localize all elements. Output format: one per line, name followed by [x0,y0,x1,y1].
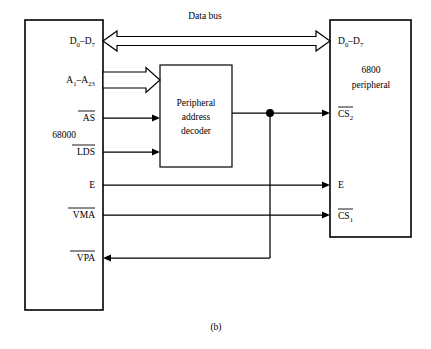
lds-arrowhead [152,148,160,155]
figure-container: Data bus D0–D7 A1–A23 AS 68000 LDS E VMA… [0,0,431,349]
cpu-pin-vma-label: VMA [73,210,95,220]
cpu-pin-as-label: AS [83,113,95,123]
as-arrowhead [152,114,160,121]
cpu-pin-e-label: E [89,180,95,190]
peripheral-block-name-line2: peripheral [352,80,391,90]
figure-caption: (b) [210,322,221,333]
decoder-label-line2: address [182,112,211,122]
peripheral-pin-e-label: E [338,180,344,190]
address-bus-arrow [103,68,160,93]
decoder-label-line1: Peripheral [176,98,215,108]
cpu-block-name: 68000 [52,130,76,140]
peripheral-block-name-line1: 6800 [362,65,381,75]
data-bus-arrow [103,31,330,51]
cpu-pin-lds-label: LDS [77,147,95,157]
e-arrowhead [322,181,330,188]
block-diagram: Data bus D0–D7 A1–A23 AS 68000 LDS E VMA… [0,0,431,349]
cpu-block-68000 [25,20,103,310]
cs1-arrowhead [322,211,330,218]
decoder-label-line3: decoder [181,126,212,136]
peripheral-block-6800 [330,20,411,237]
vpa-arrowhead [103,254,111,261]
cs2-arrowhead [322,109,330,116]
cpu-pin-vpa-label: VPA [77,253,95,263]
data-bus-label: Data bus [188,11,222,21]
